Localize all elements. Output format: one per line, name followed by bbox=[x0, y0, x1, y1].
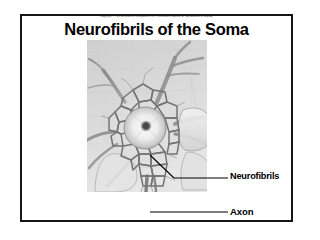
callout-leader-lines bbox=[22, 16, 293, 222]
slide-frame: Copyright © The McGraw-Hill Companies, I… bbox=[20, 14, 293, 222]
callout-label-axon: Axon bbox=[230, 206, 254, 217]
callout-label-neurofibrils: Neurofibrils bbox=[230, 171, 279, 181]
leader-line-neurofibrils-diagonal bbox=[150, 155, 174, 178]
